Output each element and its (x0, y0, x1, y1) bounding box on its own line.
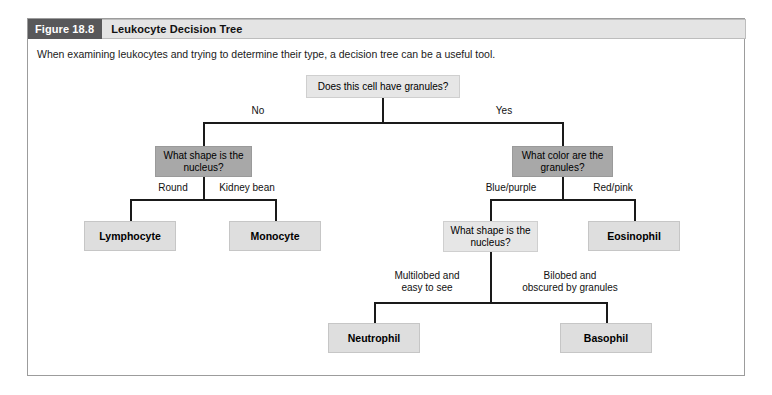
decision-node-color-granules-label: What color are the granules? (513, 150, 612, 174)
decision-node-color-granules[interactable]: What color are the granules? (512, 146, 613, 177)
edge-label-kidney-bean: Kidney bean (208, 182, 286, 194)
figure-title-bar: Leukocyte Decision Tree (102, 19, 746, 39)
connector-to-lymphocyte (130, 199, 132, 221)
figure-number-badge: Figure 18.8 (28, 19, 102, 39)
connector-to-eosinophil (634, 199, 636, 221)
outcome-node-lymphocyte-label: Lymphocyte (95, 230, 164, 242)
connector-shape-nucleus-2-stem (490, 252, 492, 302)
connector-root-stem (382, 98, 384, 122)
outcome-node-lymphocyte[interactable]: Lymphocyte (84, 221, 176, 251)
connector-to-color-granules (562, 122, 564, 146)
connector-level3-bar (374, 302, 608, 304)
connector-to-neutrophil (374, 302, 376, 323)
outcome-node-basophil-label: Basophil (580, 332, 632, 344)
outcome-node-monocyte[interactable]: Monocyte (229, 221, 321, 251)
edge-label-red-pink: Red/pink (578, 182, 648, 194)
figure-frame: Figure 18.8 Leukocyte Decision Tree When… (27, 18, 745, 376)
decision-node-shape-nucleus-1[interactable]: What shape is the nucleus? (155, 146, 252, 177)
edge-label-bilobed: Bilobed and obscured by granules (498, 270, 642, 293)
connector-level2-left-bar (130, 199, 277, 201)
edge-label-yes: Yes (474, 105, 534, 117)
outcome-node-eosinophil-label: Eosinophil (603, 230, 665, 242)
connector-to-shape-nucleus-2 (490, 199, 492, 221)
edge-label-blue-purple: Blue/purple (471, 182, 551, 194)
edge-label-no: No (228, 105, 288, 117)
outcome-node-neutrophil[interactable]: Neutrophil (328, 323, 420, 353)
outcome-node-neutrophil-label: Neutrophil (344, 332, 405, 344)
outcome-node-monocyte-label: Monocyte (246, 230, 303, 242)
decision-tree-diagram: Does this cell have granules? What shape… (28, 67, 746, 375)
figure-caption: When examining leukocytes and trying to … (37, 48, 737, 61)
outcome-node-basophil[interactable]: Basophil (560, 323, 652, 353)
figure-title: Leukocyte Decision Tree (111, 23, 242, 35)
edge-label-multilobed: Multilobed and easy to see (372, 270, 482, 293)
decision-node-root-label: Does this cell have granules? (314, 81, 453, 93)
figure-header: Figure 18.8 Leukocyte Decision Tree (28, 19, 746, 39)
decision-node-root[interactable]: Does this cell have granules? (306, 75, 460, 98)
decision-node-shape-nucleus-2[interactable]: What shape is the nucleus? (443, 221, 538, 252)
connector-level2-right-bar (490, 199, 636, 201)
connector-level1-bar (203, 122, 564, 124)
connector-to-monocyte (275, 199, 277, 221)
outcome-node-eosinophil[interactable]: Eosinophil (588, 221, 680, 251)
edge-label-round: Round (142, 182, 204, 194)
decision-node-shape-nucleus-1-label: What shape is the nucleus? (156, 150, 251, 174)
connector-color-granules-stem (562, 177, 564, 199)
connector-to-shape-nucleus-1 (203, 122, 205, 146)
decision-node-shape-nucleus-2-label: What shape is the nucleus? (444, 225, 537, 249)
connector-to-basophil (606, 302, 608, 323)
